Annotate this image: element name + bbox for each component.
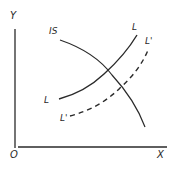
diagram-svg xyxy=(0,0,176,171)
y-axis-label: Y xyxy=(10,11,16,21)
origin-label: O xyxy=(10,150,18,160)
l-prime-curve xyxy=(70,50,148,116)
diagram-canvas: Y O X IS L L L' L' xyxy=(0,0,176,171)
l-prime-curve-label-end: L' xyxy=(145,37,153,46)
is-curve-label: IS xyxy=(49,27,57,36)
l-curve-label-end: L xyxy=(132,23,137,32)
is-curve xyxy=(60,40,145,127)
x-axis-label: X xyxy=(157,150,164,160)
l-prime-curve-label-start: L' xyxy=(60,114,68,123)
l-curve-label-start: L xyxy=(44,96,49,105)
